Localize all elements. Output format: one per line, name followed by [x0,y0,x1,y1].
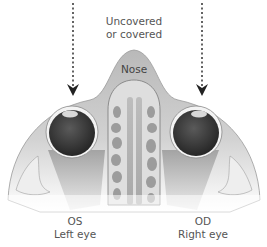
right-arrow [196,3,208,96]
left-arrow [67,3,79,96]
bottom-fade [0,195,267,215]
left-eye-abbr: OS [50,215,100,228]
nose-label: Nose [116,63,152,76]
right-eye-name: Right eye [172,228,234,241]
septum-bar-left [127,97,133,205]
right-eye-label: OD Right eye [172,215,234,241]
left-eye-name: Left eye [50,228,100,241]
septum-bar-right [136,97,142,205]
left-eyeball [46,106,98,158]
cover-label-line2: or covered [96,28,172,41]
diagram: Uncovered or covered Nose OS Left eye OD… [0,0,267,247]
cover-label-line1: Uncovered [96,15,172,28]
left-eye-label: OS Left eye [50,215,100,241]
right-eyeball [170,106,222,158]
right-eye-abbr: OD [172,215,234,228]
cover-state-label: Uncovered or covered [96,15,172,41]
